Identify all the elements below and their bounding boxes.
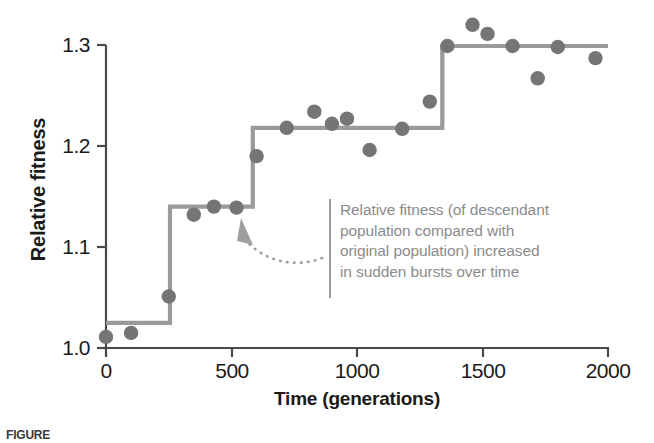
annotation-line-4: in sudden bursts over time <box>340 262 640 283</box>
data-point <box>99 330 113 344</box>
annotation-line-3: original population) increased <box>340 241 640 262</box>
x-tick-label-1500: 1500 <box>448 359 518 383</box>
y-tick-label-1.3: 1.3 <box>38 33 90 57</box>
data-point <box>465 18 479 32</box>
data-point <box>505 39 519 53</box>
data-point <box>588 51 602 65</box>
data-point <box>531 71 545 85</box>
data-point <box>325 117 339 131</box>
y-tick-label-1.0: 1.0 <box>38 336 90 360</box>
data-point <box>229 200 243 214</box>
annotation-text: Relative fitness (of descendant populati… <box>340 200 640 282</box>
data-point <box>480 27 494 41</box>
data-point <box>187 208 201 222</box>
data-point <box>395 122 409 136</box>
x-tick-label-500: 500 <box>197 359 267 383</box>
data-point <box>340 112 354 126</box>
x-tick-label-2000: 2000 <box>573 359 643 383</box>
annotation-line-1: Relative fitness (of descendant <box>340 200 640 221</box>
x-axis-label: Time (generations) <box>106 388 608 410</box>
data-point <box>551 40 565 54</box>
data-point <box>362 143 376 157</box>
data-point <box>307 105 321 119</box>
data-point <box>124 326 138 340</box>
data-point <box>207 199 221 213</box>
y-axis-label: Relative fitness <box>27 60 50 320</box>
x-tick-label-1000: 1000 <box>322 359 392 383</box>
data-point <box>423 94 437 108</box>
data-point <box>280 121 294 135</box>
annotation-line-2: population compared with <box>340 221 640 242</box>
y-tick-label-1.1: 1.1 <box>38 235 90 259</box>
annotation-rule <box>329 199 331 298</box>
x-tick-label-0: 0 <box>71 359 141 383</box>
data-point <box>440 39 454 53</box>
y-tick-label-1.2: 1.2 <box>38 134 90 158</box>
data-point <box>249 149 263 163</box>
data-point <box>162 289 176 303</box>
figure-caption: FIGURE <box>6 428 646 442</box>
